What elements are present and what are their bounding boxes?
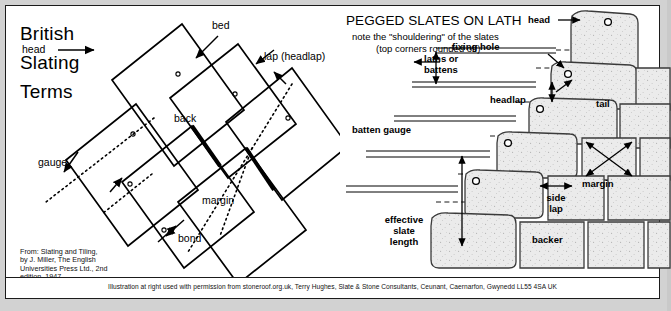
label-margin: margin [202, 194, 234, 206]
slate-c6-a [431, 213, 516, 268]
label-batten-gauge: batten gauge [352, 124, 411, 135]
label-bond: bond [178, 232, 201, 244]
label-lap-headlap: lap (headlap) [264, 50, 325, 62]
slate-c6-b [520, 222, 584, 268]
figure-frame: British Slating Terms [5, 5, 660, 299]
slate-c4-c [640, 138, 670, 180]
slate-stack-drawing [6, 6, 340, 278]
label-tail: tail [596, 98, 610, 109]
label-esl-line-3: length [374, 236, 434, 247]
label-head: head [22, 43, 45, 55]
label-bed: bed [212, 19, 230, 31]
label-laths-line-2: battens [424, 64, 458, 75]
label-backer: backer [532, 234, 563, 245]
slate-c6-c [588, 222, 644, 268]
dotted-guides [46, 84, 292, 252]
left-panel-british-slating-terms: British Slating Terms [6, 6, 340, 298]
label-side-lap-line-2: lap [538, 203, 574, 214]
label-fixing-hole: fixing hole [452, 41, 500, 52]
slate-back [112, 24, 244, 166]
label-side-lap: side lap [538, 192, 574, 214]
caption-band: Illustration at right used with permissi… [6, 277, 659, 298]
label-laths-line-1: laths or [424, 53, 458, 64]
label-side-lap-line-1: side [538, 192, 574, 203]
label-esl-line-2: slate [374, 225, 434, 236]
label-margin-right: margin [582, 178, 614, 189]
credit-text: Illustration at right used with permissi… [6, 283, 659, 290]
slate-c5-c [608, 176, 670, 220]
label-headlap: headlap [490, 94, 526, 105]
label-head-right: head [528, 14, 550, 25]
slate-c6-d [648, 222, 670, 268]
label-back: back [174, 112, 196, 124]
label-laths-or-battens: laths or battens [424, 53, 458, 75]
label-esl-line-1: effective [374, 214, 434, 225]
label-effective-slate-length: effective slate length [374, 214, 434, 247]
right-panel-pegged-slates-on-lath: PEGGED SLATES ON LATH note the "shoulder… [340, 6, 659, 298]
label-gauge: gauge [38, 156, 67, 168]
